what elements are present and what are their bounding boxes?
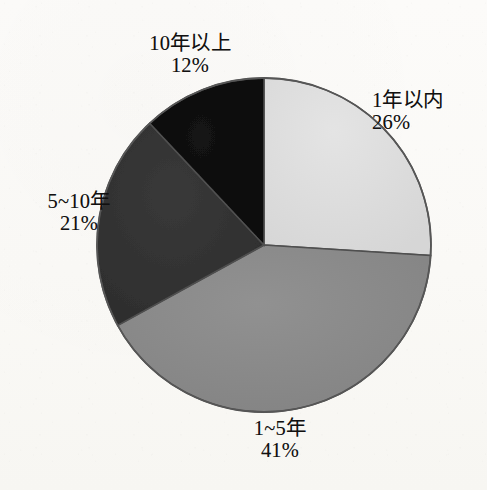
- pie-label-within1-value: 26%: [372, 111, 482, 133]
- pie-label-one-to-five-value: 41%: [222, 439, 338, 461]
- pie-label-one-to-five-name: 1~5年: [222, 417, 338, 439]
- pie-label-over-ten-name: 10年以上: [126, 32, 254, 54]
- pie-label-one-to-five: 1~5年 41%: [222, 417, 338, 461]
- pie-label-over-ten-value: 12%: [126, 54, 254, 76]
- pie-label-five-to-ten-value: 21%: [18, 212, 140, 234]
- pie-label-within1: 1年以内 26%: [372, 89, 482, 133]
- pie-label-over-ten: 10年以上 12%: [126, 32, 254, 76]
- pie-label-five-to-ten: 5~10年 21%: [18, 190, 140, 234]
- pie-label-five-to-ten-name: 5~10年: [18, 190, 140, 212]
- pie-label-within1-name: 1年以内: [372, 89, 482, 111]
- pie-chart-figure: 10年以上 12% 1年以内 26% 5~10年 21% 1~5年 41%: [0, 0, 487, 490]
